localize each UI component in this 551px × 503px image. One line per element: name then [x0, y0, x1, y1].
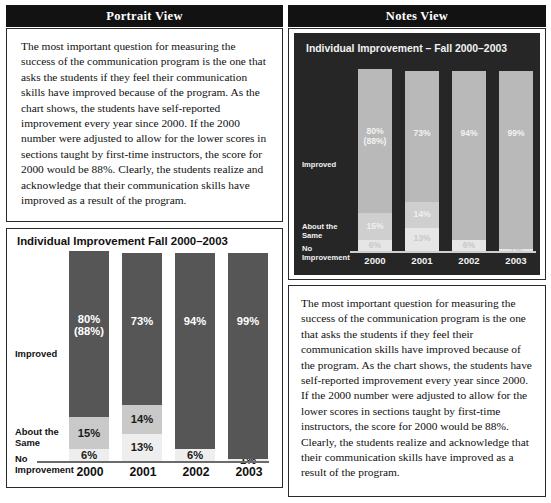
segment-improved-2003: 99% — [228, 253, 268, 459]
segment-value-about-the-same-2000: 15% — [366, 222, 383, 232]
portrait-chart-plot: 6%15%80%(88%)13%14%73%6%94%1%99% — [67, 253, 267, 461]
bar-2003: 1%99% — [228, 253, 268, 461]
segment-value-improved-2002: 94% — [460, 129, 477, 139]
x-axis-label-2003: 2003 — [499, 255, 533, 266]
x-axis-label-2001: 2001 — [405, 255, 439, 266]
row-label-no-improvement-line2: Improvement — [302, 254, 350, 263]
row-label-improved: Improved — [302, 161, 336, 170]
segment-value-improved-2002: 94% — [184, 315, 206, 328]
segment-improved-2003: 99% — [499, 71, 533, 249]
notes-chart-axis — [350, 251, 536, 253]
notes-body-paragraph: The most important question for measurin… — [301, 296, 537, 481]
segment-no-improvement-2001: 13% — [122, 434, 162, 461]
notes-text-panel: The most important question for measurin… — [288, 285, 546, 497]
notes-chart-panel: Individual Improvement – Fall 2000–2003 … — [294, 33, 540, 275]
segment-subvalue-improved-2000: (88%) — [364, 137, 387, 147]
segment-no-improvement-2002: 6% — [175, 449, 215, 461]
segment-subvalue-improved-2000: (88%) — [74, 325, 104, 338]
portrait-chart-title: Individual Improvement Fall 2000–2003 — [17, 235, 228, 247]
row-label-no-improvement: NoImprovement — [302, 245, 350, 262]
segment-value-improved-2000: 80%(88%) — [74, 313, 104, 338]
segment-improved-2002: 94% — [452, 71, 486, 240]
notes-chart-title: Individual Improvement – Fall 2000–2003 — [306, 43, 507, 54]
portrait-body-paragraph: The most important question for measurin… — [21, 39, 269, 208]
segment-value-no-improvement-2001: 13% — [131, 441, 153, 454]
segment-improved-2002: 94% — [175, 253, 215, 449]
row-label-about-the-same: About theSame — [302, 223, 337, 240]
segment-value-improved-2000: 80%(88%) — [364, 127, 387, 146]
segment-improved-2000: 80%(88%) — [69, 251, 109, 417]
notes-chart-plot: 6%15%80%(88%)13%14%73%6%94%1%99% — [356, 71, 532, 251]
x-axis-label-2000: 2000 — [358, 255, 392, 266]
segment-about-the-same-2000: 15% — [69, 417, 109, 448]
segment-value-no-improvement-2000: 6% — [369, 241, 381, 251]
row-label-no-improvement-line2: Improvement — [15, 465, 74, 476]
segment-value-about-the-same-2001: 14% — [131, 413, 153, 426]
bar-2002: 6%94% — [175, 253, 215, 461]
x-axis-label-2000: 2000 — [70, 465, 110, 479]
segment-no-improvement-2001: 13% — [405, 228, 439, 251]
segment-about-the-same-2001: 14% — [405, 202, 439, 227]
row-label-about-the-same-line2: Same — [302, 232, 337, 241]
notes-view-header: Notes View — [288, 5, 546, 27]
segment-improved-2001: 73% — [405, 71, 439, 202]
page-root: Portrait View Notes View The most import… — [0, 0, 551, 503]
bar-2001: 13%14%73% — [405, 71, 439, 251]
segment-value-about-the-same-2001: 14% — [413, 210, 430, 220]
segment-value-improved-2001: 73% — [131, 315, 153, 328]
x-axis-label-2002: 2002 — [452, 255, 486, 266]
row-label-improved: Improved — [15, 349, 57, 360]
segment-value-no-improvement-2000: 6% — [81, 449, 97, 462]
row-label-about-the-same-line2: Same — [15, 438, 59, 449]
row-label-no-improvement: NoImprovement — [15, 454, 74, 476]
portrait-view-header: Portrait View — [6, 5, 283, 27]
row-label-about-the-same: About theSame — [15, 427, 59, 449]
bar-2002: 6%94% — [452, 71, 486, 251]
bar-2000: 6%15%80%(88%) — [69, 253, 109, 461]
segment-value-no-improvement-2002: 6% — [463, 241, 475, 251]
segment-value-no-improvement-2002: 6% — [187, 449, 203, 462]
segment-value-improved-2001: 73% — [413, 129, 430, 139]
segment-value-improved-2003: 99% — [507, 129, 524, 139]
segment-improved-2000: 80%(88%) — [358, 69, 392, 213]
bar-2001: 13%14%73% — [122, 253, 162, 461]
segment-value-improved-2003: 99% — [237, 315, 259, 328]
x-axis-label-2001: 2001 — [123, 465, 163, 479]
bar-2000: 6%15%80%(88%) — [358, 71, 392, 251]
segment-no-improvement-2000: 6% — [69, 449, 109, 461]
segment-about-the-same-2000: 15% — [358, 213, 392, 240]
portrait-chart-panel: Individual Improvement Fall 2000–2003 6%… — [6, 228, 283, 488]
x-axis-label-2003: 2003 — [229, 465, 269, 479]
segment-about-the-same-2001: 14% — [122, 405, 162, 434]
segment-no-improvement-2000: 6% — [358, 240, 392, 251]
segment-improved-2001: 73% — [122, 253, 162, 405]
bar-2003: 1%99% — [499, 71, 533, 251]
segment-value-about-the-same-2000: 15% — [78, 427, 100, 440]
segment-no-improvement-2002: 6% — [452, 240, 486, 251]
portrait-text-panel: The most important question for measurin… — [6, 28, 283, 222]
x-axis-label-2002: 2002 — [176, 465, 216, 479]
segment-value-no-improvement-2001: 13% — [413, 234, 430, 244]
